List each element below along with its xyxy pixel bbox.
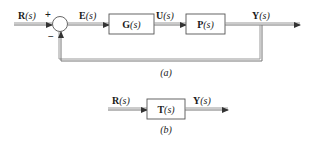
- plant-label-p: P(s): [197, 19, 214, 31]
- output-label-y-b: Y(s): [193, 95, 211, 107]
- output-signal-wire: [225, 23, 300, 25]
- error-label-e: E(s): [79, 10, 97, 22]
- summing-junction: [53, 17, 68, 32]
- controller-label-g: G(s): [122, 19, 141, 31]
- minus-sign: −: [48, 31, 54, 42]
- output-signal-wire-b: [185, 108, 228, 110]
- closed-loop-diagram: R(s) + − E(s) G(s) U(s) P(s) Y(s): [14, 9, 300, 79]
- input-signal-r-wire: [14, 23, 52, 25]
- input-label-r-b: R(s): [112, 95, 130, 107]
- caption-a: (a): [160, 67, 172, 79]
- block-diagram-canvas: R(s) + − E(s) G(s) U(s) P(s) Y(s): [0, 0, 312, 144]
- input-signal-r-wire-b: [108, 108, 147, 110]
- input-label-r: R(s): [18, 10, 36, 22]
- control-label-u: U(s): [156, 10, 174, 22]
- equivalent-diagram: R(s) T(s) Y(s) (b): [108, 95, 228, 136]
- error-signal-wire: [68, 23, 109, 25]
- transfer-label-t: T(s): [157, 104, 175, 116]
- plus-sign: +: [45, 9, 51, 20]
- caption-b: (b): [160, 124, 172, 136]
- output-label-y: Y(s): [252, 10, 270, 22]
- feedback-path: [59, 25, 262, 61]
- control-signal-wire: [154, 23, 186, 25]
